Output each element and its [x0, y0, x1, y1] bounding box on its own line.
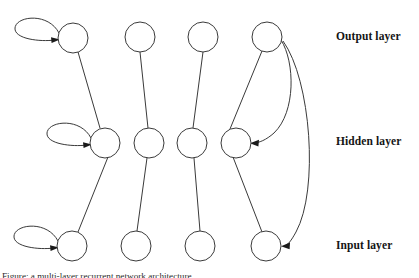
node-input-4[interactable]: [251, 231, 281, 261]
edge-hidden3-input3: [194, 158, 200, 231]
edge-hidden4-input4: [233, 157, 262, 232]
node-input-1[interactable]: [57, 231, 87, 261]
node-hidden-1[interactable]: [90, 128, 120, 158]
node-output-1[interactable]: [58, 23, 88, 53]
node-output-4[interactable]: [252, 22, 282, 52]
input-layer-nodes: [57, 231, 281, 261]
edge-output3-hidden3: [193, 52, 203, 128]
edge-hidden1-input1: [78, 157, 108, 232]
layer-label-hidden: Hidden layer: [336, 136, 401, 148]
hidden-layer-nodes: [90, 128, 251, 158]
node-hidden-4[interactable]: [221, 128, 251, 158]
edge-output2-hidden2: [140, 52, 148, 128]
self-loop-output1: [15, 18, 59, 40]
feedback-output4-to-input4: [283, 41, 309, 246]
node-output-2[interactable]: [125, 22, 155, 52]
feedback-edge-group: [250, 40, 309, 249]
node-input-3[interactable]: [185, 231, 215, 261]
feedback-output4-to-input4-arrowhead: [281, 243, 290, 250]
feedback-output4-to-hidden4: [253, 40, 291, 143]
node-hidden-2[interactable]: [134, 128, 164, 158]
self-loop-group: [14, 18, 92, 251]
node-output-3[interactable]: [188, 22, 218, 52]
edge-output1-hidden1: [78, 52, 100, 128]
figure-root: Output layer Hidden layer Input layer Fi…: [0, 0, 419, 278]
edge-output4-hidden4: [230, 51, 262, 129]
self-loop-hidden1: [47, 123, 91, 145]
output-layer-nodes: [58, 22, 282, 53]
layer-label-input: Input layer: [336, 240, 392, 252]
self-loop-input1: [14, 226, 58, 248]
node-hidden-3[interactable]: [177, 128, 207, 158]
figure-caption: Figure: a multi-layer recurrent network …: [2, 271, 417, 278]
node-input-2[interactable]: [121, 231, 151, 261]
layer-label-output: Output layer: [336, 31, 401, 43]
edge-hidden2-input2: [137, 158, 147, 231]
